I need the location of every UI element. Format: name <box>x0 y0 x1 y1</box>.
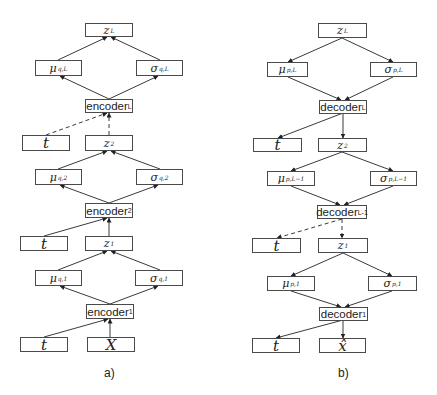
node-t-a-bottom: t <box>20 337 68 352</box>
node-mu-p-1: μp,1 <box>267 276 315 291</box>
node-sigma-q-L: σq,L <box>136 60 183 76</box>
node-sigma-p-L: σp,L <box>370 62 417 77</box>
node-encoder-2: encoder2 <box>85 203 133 218</box>
caption-b: b) <box>338 366 349 380</box>
node-t-b-top: t <box>253 138 302 152</box>
node-t-b-mid: t <box>252 238 301 253</box>
caption-a: a) <box>104 366 115 380</box>
node-decoder-L: decoderL <box>319 100 367 114</box>
node-z-L-a: zL <box>85 23 133 37</box>
node-z-2-a: z2 <box>85 135 133 151</box>
node-sigma-p-1: σp,1 <box>368 276 417 291</box>
node-mu-p-L-1: μp,L−1 <box>267 171 315 186</box>
node-z-1-b: z1 <box>318 238 368 253</box>
node-mu-p-L: μp,L <box>267 62 308 77</box>
node-t-a-mid: t <box>20 236 68 251</box>
node-mu-q-2: μq,2 <box>35 169 82 185</box>
node-mu-q-L: μq,L <box>35 60 82 76</box>
node-sigma-q-2: σq,2 <box>136 169 183 185</box>
node-sigma-q-1: σq,1 <box>135 270 183 286</box>
vae-hierarchy-diagram: zL μq,L σq,L encoderL t z2 μq,2 σq,2 enc… <box>0 0 437 395</box>
node-t-b-bottom: t <box>252 338 300 353</box>
node-decoder-1: decoder1 <box>319 307 368 321</box>
node-t-a-top: t <box>22 135 70 151</box>
node-x-hat-output: x̂ <box>319 338 366 353</box>
node-encoder-L: encoderL <box>85 99 133 113</box>
node-z-1-a: z1 <box>85 236 133 251</box>
node-z-2-b: z2 <box>318 138 367 152</box>
node-encoder-1: encoder1 <box>86 304 134 319</box>
node-decoder-L-1: decoderL-1 <box>317 205 367 219</box>
node-X-input: X <box>87 337 135 352</box>
node-mu-q-1: μq,1 <box>35 270 82 286</box>
node-z-L-b: zL <box>318 23 367 38</box>
node-sigma-p-L-1: σp,L−1 <box>370 171 417 186</box>
